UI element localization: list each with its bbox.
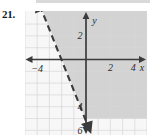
plot-svg: −4 2 4 x 2 4 6 y xyxy=(25,11,147,135)
y-tick-label-2: 2 xyxy=(78,30,83,41)
x-tick-label-2: 2 xyxy=(108,62,113,73)
y-tick-label--4: 4 xyxy=(78,101,83,112)
x-axis-name: x xyxy=(139,62,145,73)
figure-root: 21. xyxy=(0,0,150,139)
y-axis-name: y xyxy=(91,15,97,26)
exercise-number: 21. xyxy=(2,8,15,20)
x-tick-label-4: 4 xyxy=(131,62,136,73)
x-tick-label--4: −4 xyxy=(31,63,43,74)
y-tick-label--6: 6 xyxy=(78,125,83,135)
coordinate-plane: −4 2 4 x 2 4 6 y xyxy=(25,11,147,135)
top-divider-rule xyxy=(36,0,150,3)
